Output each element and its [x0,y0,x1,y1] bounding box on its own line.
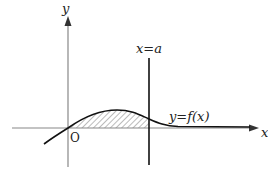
y-axis-arrow-icon [65,16,72,26]
shaded-area [68,110,149,128]
diagram-canvas: y x O x=a y=f(x) [0,0,268,174]
vertical-line-label: x=a [136,41,162,56]
x-axis-label: x [261,125,268,140]
curve-label: y=f(x) [168,109,210,124]
x-axis-arrow-icon [249,125,259,132]
y-axis-label: y [61,1,70,16]
origin-label: O [70,131,80,145]
